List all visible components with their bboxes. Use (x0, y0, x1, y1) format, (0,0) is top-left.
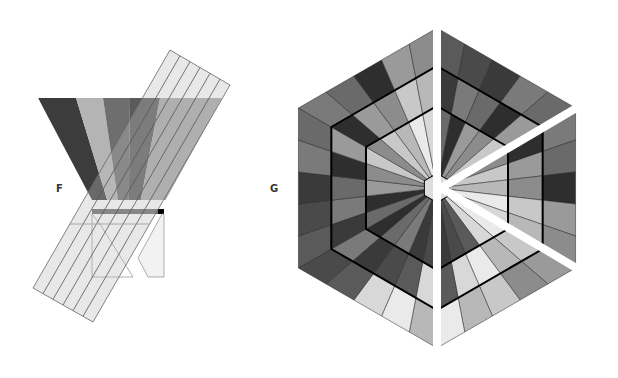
figure-g-label: G (270, 183, 278, 194)
figure-g (298, 18, 610, 358)
figure-f-label: F (56, 183, 63, 194)
hex-cell (543, 172, 576, 204)
vertical-gap (433, 18, 441, 358)
hex-cell (331, 176, 366, 200)
hex-cell (508, 176, 543, 200)
figure-f (0, 50, 260, 322)
hex-cell (298, 172, 331, 204)
figure-canvas: F G (0, 0, 618, 378)
